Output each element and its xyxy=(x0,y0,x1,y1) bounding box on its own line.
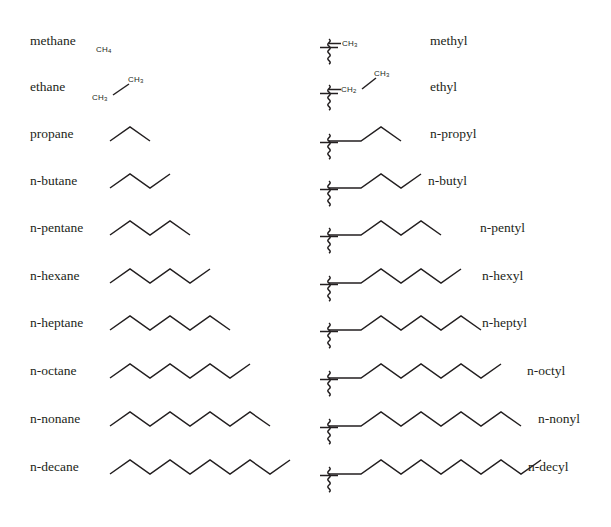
alkyl-group-name-label: n-heptyl xyxy=(482,316,527,330)
alkyl-group-name-label: n-nonyl xyxy=(538,412,580,426)
alkyl-group-name-label: n-octyl xyxy=(527,364,565,378)
alkane-skeletal-chain xyxy=(110,316,230,330)
wavy-attachment-bond xyxy=(320,371,338,396)
structure-row: n-heptanen-heptyl xyxy=(0,300,611,347)
wavy-attachment-bond xyxy=(320,85,338,110)
structure-row: propanen-propyl xyxy=(0,111,611,158)
alkyl-skeletal-chain xyxy=(329,269,461,283)
alkane-name-label: methane xyxy=(30,34,76,48)
skeletal-structure-layer xyxy=(0,18,611,65)
structure-row: n-octanen-octyl xyxy=(0,348,611,395)
skeletal-structure-layer xyxy=(0,444,611,491)
wavy-attachment-bond xyxy=(320,467,338,492)
alkyl-carbon-carbon-bond xyxy=(362,78,376,89)
alkane-name-label: propane xyxy=(30,127,73,141)
structure-row: n-pentanen-pentyl xyxy=(0,205,611,252)
wavy-attachment-bond xyxy=(320,323,338,348)
alkyl-skeletal-chain xyxy=(329,316,481,330)
wavy-attachment-bond xyxy=(320,419,338,444)
alkane-molecular-formula: CH4 xyxy=(96,46,112,54)
alkyl-skeletal-chain xyxy=(329,412,521,426)
wavy-attachment-bond xyxy=(320,39,338,64)
skeletal-structure-layer xyxy=(0,64,611,111)
alkyl-formula-right: CH3 xyxy=(374,70,390,78)
wavy-attachment-bond xyxy=(320,228,338,253)
alkane-skeletal-chain xyxy=(110,412,270,426)
wavy-attachment-bond xyxy=(320,134,338,159)
alkane-name-label: n-octane xyxy=(30,364,76,378)
alkane-skeletal-chain xyxy=(110,221,190,235)
alkane-skeletal-chain xyxy=(110,127,150,141)
figure-canvas: methanemethylCH4CH3ethaneethylCH3CH3CH2C… xyxy=(0,0,611,527)
alkane-name-label: n-butane xyxy=(30,174,77,188)
alkyl-skeletal-chain xyxy=(329,364,501,378)
alkane-name-label: n-hexane xyxy=(30,269,79,283)
alkane-name-label: n-nonane xyxy=(30,412,80,426)
alkane-name-label: ethane xyxy=(30,80,65,94)
alkyl-skeletal-chain xyxy=(329,174,421,188)
alkane-skeletal-chain xyxy=(110,174,170,188)
skeletal-structure-layer xyxy=(0,396,611,443)
alkyl-group-name-label: n-hexyl xyxy=(482,269,523,283)
structure-row: methanemethylCH4CH3 xyxy=(0,18,611,65)
skeletal-structure-layer xyxy=(0,158,611,205)
alkyl-formula-left: CH2 xyxy=(341,86,357,94)
skeletal-structure-layer xyxy=(0,111,611,158)
alkane-name-label: n-decane xyxy=(30,460,79,474)
alkyl-group-name-label: n-butyl xyxy=(428,174,467,188)
skeletal-structure-layer xyxy=(0,348,611,395)
alkyl-group-name-label: n-pentyl xyxy=(480,221,525,235)
alkyl-skeletal-chain xyxy=(329,221,441,235)
structure-row: n-decanen-decyl xyxy=(0,444,611,491)
structure-row: n-butanen-butyl xyxy=(0,158,611,205)
alkyl-group-name-label: n-propyl xyxy=(430,127,477,141)
alkyl-skeletal-chain xyxy=(329,127,401,141)
alkane-skeletal-chain xyxy=(110,364,250,378)
alkyl-group-name-label: n-decyl xyxy=(528,460,568,474)
structure-row: n-nonanen-nonyl xyxy=(0,396,611,443)
alkyl-terminal-formula: CH3 xyxy=(342,40,358,48)
structure-row: n-hexanen-hexyl xyxy=(0,253,611,300)
wavy-attachment-bond xyxy=(320,181,338,206)
structure-row: ethaneethylCH3CH3CH2CH3 xyxy=(0,64,611,111)
alkyl-group-name-label: methyl xyxy=(430,34,468,48)
alkane-skeletal-chain xyxy=(110,269,210,283)
alkane-formula-right: CH3 xyxy=(128,76,144,84)
alkane-carbon-carbon-bond xyxy=(113,84,129,95)
alkyl-group-name-label: ethyl xyxy=(430,80,457,94)
alkane-skeletal-chain xyxy=(110,460,290,474)
alkyl-skeletal-chain xyxy=(329,460,541,474)
alkane-name-label: n-heptane xyxy=(30,316,83,330)
alkane-formula-left: CH3 xyxy=(92,94,108,102)
wavy-attachment-bond xyxy=(320,276,338,301)
alkane-name-label: n-pentane xyxy=(30,221,83,235)
